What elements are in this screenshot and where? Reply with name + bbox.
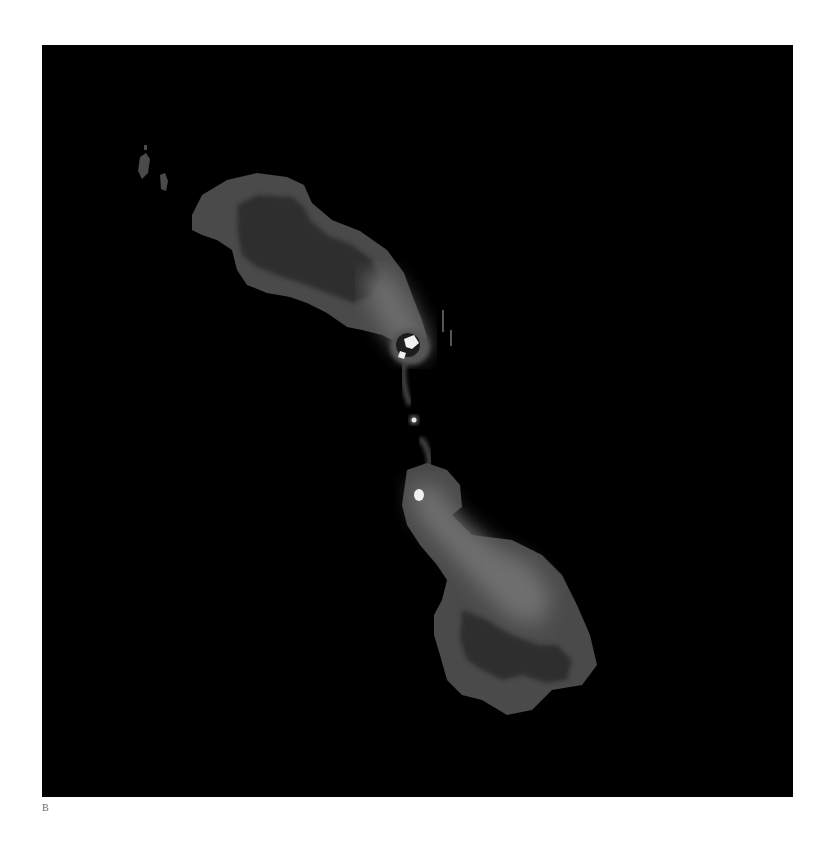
radio-galaxy-image bbox=[42, 45, 793, 797]
noise-speckles bbox=[138, 145, 168, 191]
panel-label: B bbox=[42, 802, 49, 813]
jet-north bbox=[403, 363, 410, 405]
radio-lobes-rendering bbox=[42, 45, 793, 797]
south-hotspot bbox=[414, 489, 424, 501]
jet-south bbox=[420, 438, 430, 467]
